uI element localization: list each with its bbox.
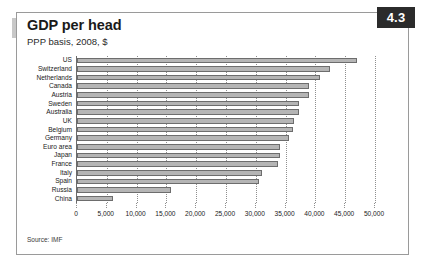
bar <box>77 127 293 133</box>
category-label: Euro area <box>43 143 72 151</box>
x-tick-label: 50,000 <box>364 210 384 217</box>
category-label: Austria <box>51 91 72 99</box>
category-label: US <box>63 56 72 64</box>
x-tick-label: 30,000 <box>245 210 265 217</box>
bar <box>77 196 113 202</box>
category-label: Germany <box>45 134 72 142</box>
x-tick-label: 0 <box>74 210 78 217</box>
x-tick-label: 5,000 <box>98 210 115 217</box>
gridline <box>375 56 376 203</box>
axis-tick <box>195 203 196 208</box>
axis-tick <box>76 203 77 208</box>
category-label: Belgium <box>48 126 72 134</box>
x-axis-tick-labels: 05,00010,00015,00020,00025,00030,00035,0… <box>0 210 424 222</box>
category-label: China <box>55 195 72 203</box>
category-label: Japan <box>54 151 72 159</box>
category-label: Netherlands <box>36 74 72 82</box>
x-tick-label: 25,000 <box>215 210 235 217</box>
x-tick-label: 10,000 <box>126 210 146 217</box>
x-tick-label: 20,000 <box>185 210 205 217</box>
bar <box>77 109 299 115</box>
category-label: Australia <box>46 108 72 116</box>
bar <box>77 187 171 193</box>
bar <box>77 153 280 159</box>
source-note: Source: IMF <box>27 236 62 243</box>
axis-tick <box>314 203 315 208</box>
plot-wrapper: USSwitzerlandNetherlandsCanadaAustriaSwe… <box>0 0 424 270</box>
axis-tick <box>106 203 107 208</box>
axis-tick <box>374 203 375 208</box>
plot-area <box>76 56 375 203</box>
bar <box>77 118 294 124</box>
x-tick-label: 45,000 <box>334 210 354 217</box>
bar <box>77 179 259 185</box>
bar <box>77 101 299 107</box>
x-tick-label: 40,000 <box>304 210 324 217</box>
bar <box>77 161 278 167</box>
category-label: Italy <box>60 169 72 177</box>
bar <box>77 92 309 98</box>
bar <box>77 83 309 89</box>
x-axis-ticks <box>76 203 374 209</box>
category-label: France <box>51 160 72 168</box>
bar <box>77 135 289 141</box>
x-tick-label: 15,000 <box>155 210 175 217</box>
axis-tick <box>165 203 166 208</box>
category-axis-labels: USSwitzerlandNetherlandsCanadaAustriaSwe… <box>20 56 74 203</box>
chart-figure: 4.3 GDP per head PPP basis, 2008, $ USSw… <box>0 0 424 270</box>
axis-tick <box>344 203 345 208</box>
axis-tick <box>255 203 256 208</box>
axis-tick <box>136 203 137 208</box>
bar <box>77 75 320 81</box>
category-label: Canada <box>49 82 72 90</box>
category-label: UK <box>63 117 72 125</box>
bar <box>77 170 262 176</box>
category-label: Russia <box>52 186 72 194</box>
bar <box>77 58 357 64</box>
gridline <box>345 56 346 203</box>
axis-tick <box>285 203 286 208</box>
bar <box>77 66 330 72</box>
category-label: Spain <box>55 177 72 185</box>
category-label: Switzerland <box>38 65 72 73</box>
axis-tick <box>225 203 226 208</box>
x-tick-label: 35,000 <box>275 210 295 217</box>
category-label: Sweden <box>48 100 72 108</box>
bar <box>77 144 280 150</box>
